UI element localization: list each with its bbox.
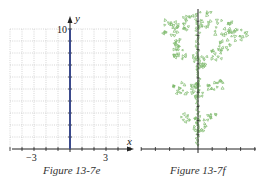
- fractal-tree: [162, 11, 249, 147]
- y-axis-label: y: [74, 12, 80, 24]
- caption-left: Figure 13-7e: [43, 164, 100, 176]
- y-axis-arrow-icon: [68, 16, 73, 23]
- x-axis-label: x: [126, 135, 132, 147]
- tick-label-3: 3: [103, 152, 108, 163]
- left-chart: y x 10 −3 3: [10, 12, 134, 163]
- tick-label-neg3: −3: [26, 152, 37, 163]
- x-axis-arrow-icon: [127, 147, 134, 152]
- figure-canvas: y x 10 −3 3: [0, 0, 264, 186]
- tick-label-10: 10: [57, 24, 67, 35]
- right-chart: [141, 9, 256, 153]
- caption-right: Figure 13-7f: [170, 164, 226, 176]
